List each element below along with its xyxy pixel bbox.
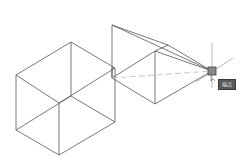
endpoint-snap-marker-icon (208, 67, 216, 75)
edge-line[interactable] (16, 96, 71, 130)
edge-line[interactable] (16, 75, 59, 103)
edge-line[interactable] (71, 42, 115, 68)
edge-line[interactable] (112, 78, 155, 104)
tracking-line (112, 71, 212, 78)
snap-tooltip: 端点 (218, 79, 236, 90)
edge-line[interactable] (155, 71, 212, 104)
right-box-wireframe[interactable] (112, 25, 212, 104)
edge-line[interactable] (71, 96, 115, 122)
edge-line[interactable] (16, 130, 59, 155)
left-box-wireframe[interactable] (16, 42, 115, 155)
cursor-pointer-icon (211, 75, 215, 81)
edge-line[interactable] (112, 25, 168, 45)
edge-line[interactable] (16, 42, 71, 75)
edge-line[interactable] (59, 68, 115, 103)
drawing-canvas[interactable] (0, 0, 251, 165)
edge-line[interactable] (59, 122, 115, 155)
edge-line[interactable] (112, 51, 155, 78)
